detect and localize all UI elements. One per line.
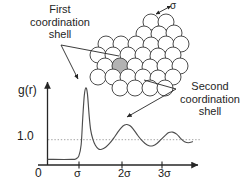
sphere — [127, 80, 143, 96]
x-tick-label-3sigma: 3σ — [158, 167, 171, 179]
rdf-curve — [48, 88, 192, 160]
first-shell-line-2: coordination — [22, 16, 98, 29]
y-axis-label: g(r) — [18, 83, 37, 97]
sphere — [112, 80, 128, 96]
second-shell-line-3: shell — [176, 105, 244, 118]
second-shell-line-2: coordination — [176, 93, 244, 106]
first-shell-line-1: First — [22, 3, 98, 16]
sphere-diameter-indicator — [156, 6, 171, 14]
second-shell-line-1: Second — [176, 80, 244, 93]
x-tick-label-sigma: σ — [74, 167, 81, 179]
first-shell-line-3: shell — [22, 28, 98, 41]
sphere-cluster — [90, 14, 189, 96]
sphere — [157, 80, 173, 96]
y-tick-label-one: 1.0 — [17, 129, 34, 143]
sphere-diameter-label: σ — [170, 0, 176, 11]
sphere — [90, 69, 106, 85]
x-tick-label-0: 0 — [35, 166, 42, 180]
x-tick-label-2sigma: 2σ — [118, 167, 131, 179]
rdf-figure: First coordination shell Second coordina… — [0, 0, 244, 184]
sphere — [142, 80, 158, 96]
first-shell-annotation: First coordination shell — [22, 3, 98, 41]
second-shell-annotation: Second coordination shell — [176, 80, 244, 118]
